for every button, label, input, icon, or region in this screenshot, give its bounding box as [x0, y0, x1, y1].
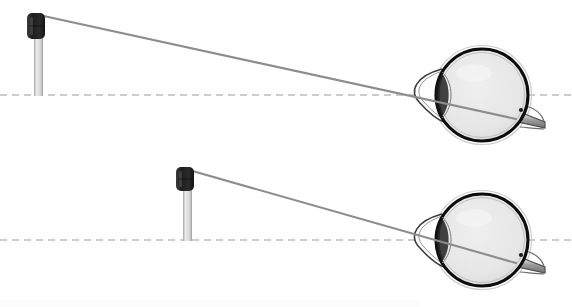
eye-diagram-top: [415, 46, 545, 145]
figure-canvas: [0, 0, 572, 307]
object-pole-bottom: [176, 167, 194, 241]
panel-bottom: [0, 167, 572, 290]
cropped-caption-strip: [0, 300, 420, 307]
eye-visual-angle-figure: [0, 0, 572, 307]
object-pole-top: [27, 13, 45, 96]
panel-top: [0, 13, 572, 145]
